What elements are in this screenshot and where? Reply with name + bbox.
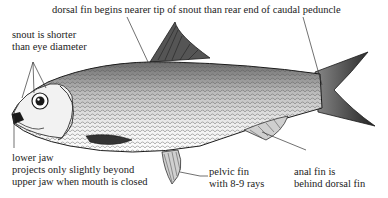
fish-diagram: dorsal fin begins nearer tip of snout th… [0,0,388,198]
dorsal-leader [127,17,148,62]
caudal-fin [315,52,375,126]
anal-leader [262,132,306,150]
pelvic-leader [180,172,208,176]
anal-fin-label: anal fin is behind dorsal fin [294,166,365,190]
snout-leader-3 [33,62,46,88]
snout-label: snout is shorter than eye diameter [12,29,87,53]
dorsal-fin-label: dorsal fin begins nearer tip of snout th… [52,4,341,16]
dorsal-fin [150,22,210,62]
snout-leader-2 [33,62,34,93]
pelvic-fin-label: pelvic fin with 8-9 rays [209,166,264,190]
lower-jaw-label: lower jaw projects only slightly beyond … [12,152,148,188]
fish-head [12,84,74,140]
pelvic-fin [162,150,181,184]
